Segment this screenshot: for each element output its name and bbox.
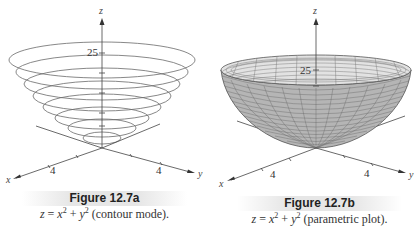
x-tick-label: 4: [270, 168, 276, 180]
y-axis-label: y: [197, 168, 203, 179]
figure-title: Figure 12.7a: [0, 191, 209, 205]
axes: [16, 24, 190, 178]
figure-title: Figure 12.7b: [215, 196, 418, 210]
y-axis-arrow-icon: [398, 170, 406, 174]
z-tick-label: 25: [87, 46, 99, 58]
y-axis-label: y: [408, 169, 414, 180]
x-tick-label: 4: [50, 164, 56, 176]
x-axis-arrow-icon: [13, 175, 21, 180]
x-axis-label: x: [5, 174, 11, 185]
z-axis-label: z: [98, 5, 103, 16]
figure-caption: z = x2 + y2 (contour mode).: [0, 207, 209, 222]
z-axis-arrow-icon: [314, 18, 319, 25]
x-axis-arrow-icon: [227, 177, 235, 182]
y-axis-arrow-icon: [187, 170, 195, 174]
figure-12-7a: z x y 25 4 4 Figure 12.7a z = x2 + y2 (c…: [0, 0, 209, 239]
figure-12-7b: z x y 25 4 4 Figure 12.7b z = x2 + y2 (p…: [209, 0, 418, 239]
figure-caption: z = x2 + y2 (parametric plot).: [215, 212, 418, 227]
y-tick-label: 4: [156, 164, 162, 176]
z-tick-label: 25: [300, 64, 312, 76]
y-tick-label: 4: [364, 167, 370, 179]
z-axis-arrow-icon: [100, 18, 105, 25]
x-axis-label: x: [218, 178, 224, 189]
z-axis-label: z: [312, 5, 317, 16]
